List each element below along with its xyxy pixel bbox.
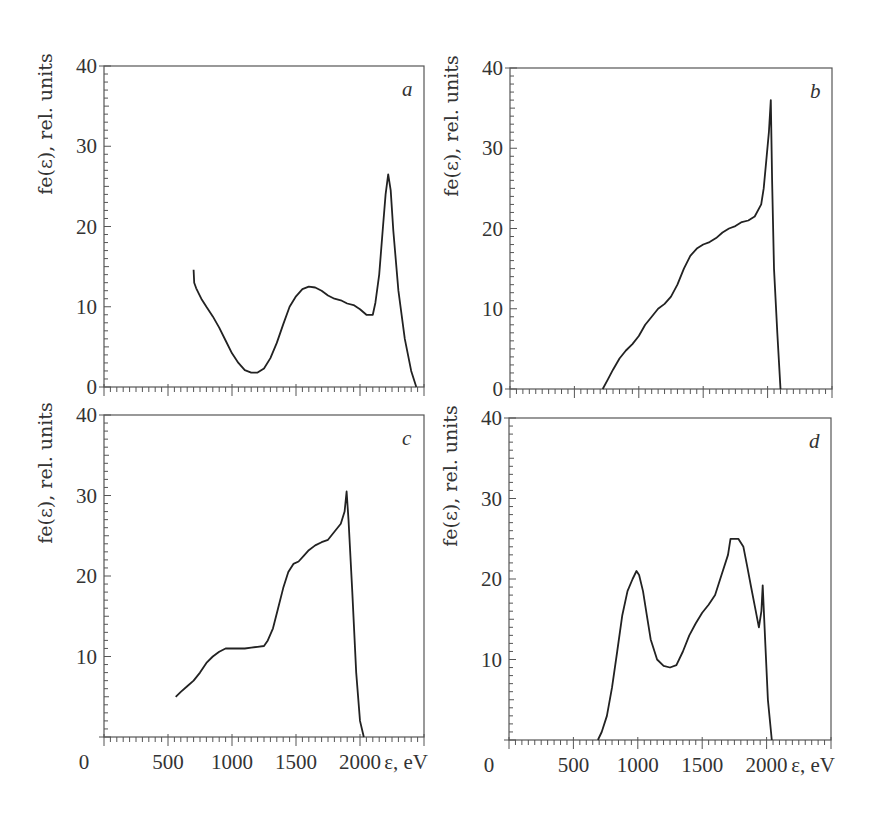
y-tick-label: 10 <box>76 295 97 319</box>
x-tick-label: 1500 <box>681 753 723 777</box>
y-tick-label: 40 <box>482 56 503 80</box>
x-tick-label: 0 <box>79 750 90 774</box>
panel-letter: d <box>809 429 820 453</box>
y-axis-label: fe(ε), rel. units <box>439 405 461 546</box>
y-tick-label: 40 <box>481 406 502 430</box>
panel-letter: a <box>402 77 413 101</box>
x-axis-label: ε, eV <box>384 750 428 774</box>
plot-frame <box>510 68 832 389</box>
x-tick-label: 2000 <box>746 753 788 777</box>
y-tick-label: 0 <box>87 375 98 399</box>
plot-frame <box>104 415 424 737</box>
y-axis-label: fe(ε), rel. units <box>34 402 56 543</box>
y-tick-label: 30 <box>76 484 97 508</box>
y-tick-label: 10 <box>482 297 503 321</box>
data-curve-b <box>603 100 781 389</box>
y-tick-label: 30 <box>481 487 502 511</box>
plot-frame <box>509 418 831 740</box>
y-tick-label: 20 <box>76 564 97 588</box>
plot-frame <box>104 66 424 387</box>
panel-b: 010203040fe(ε), rel. unitsb <box>440 55 832 401</box>
x-axis-label: ε, eV <box>791 753 835 777</box>
y-tick-label: 0 <box>493 377 504 401</box>
y-tick-label: 20 <box>76 215 97 239</box>
panel-letter: b <box>810 79 821 103</box>
y-axis-label: fe(ε), rel. units <box>440 55 462 196</box>
y-tick-label: 40 <box>76 54 97 78</box>
y-axis-label: fe(ε), rel. units <box>34 53 56 194</box>
y-tick-label: 20 <box>482 217 503 241</box>
x-tick-label: 500 <box>558 753 590 777</box>
figure: 010203040fe(ε), rel. unitsa 010203040fe(… <box>0 0 880 818</box>
x-tick-label: 2000 <box>339 750 381 774</box>
y-tick-label: 40 <box>76 403 97 427</box>
data-curve-d <box>598 539 772 740</box>
x-tick-label: 500 <box>152 750 184 774</box>
x-tick-label: 1000 <box>617 753 659 777</box>
data-curve-a <box>194 174 417 387</box>
x-tick-label: 0 <box>484 753 495 777</box>
y-tick-label: 20 <box>481 567 502 591</box>
y-tick-label: 30 <box>482 136 503 160</box>
panel-d: 10203040fe(ε), rel. unitsd05001000150020… <box>439 405 835 777</box>
panel-a: 010203040fe(ε), rel. unitsa <box>34 53 424 399</box>
x-tick-label: 1000 <box>211 750 253 774</box>
y-tick-label: 10 <box>481 648 502 672</box>
panel-letter: c <box>402 426 412 450</box>
data-curve-c <box>176 492 364 738</box>
panel-c: 10203040fe(ε), rel. unitsc05001000150020… <box>34 402 428 774</box>
x-tick-label: 1500 <box>275 750 317 774</box>
y-tick-label: 10 <box>76 645 97 669</box>
y-tick-label: 30 <box>76 134 97 158</box>
